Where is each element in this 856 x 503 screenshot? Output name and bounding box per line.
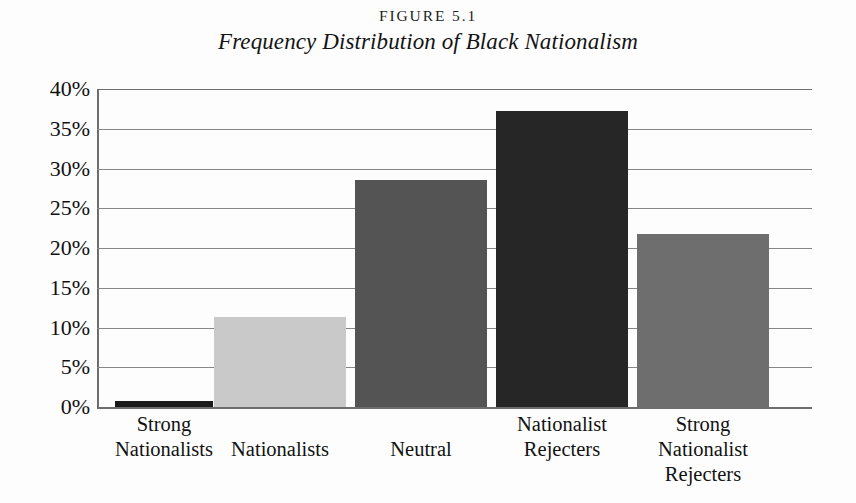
gridline bbox=[97, 129, 812, 130]
bar bbox=[355, 180, 487, 407]
y-axis-tick-label: 40% bbox=[12, 78, 90, 100]
y-axis-tick-labels: 40%35%30%25%20%15%10%5%0% bbox=[8, 89, 90, 407]
x-axis-category-label-line: Nationalist bbox=[603, 437, 803, 462]
bar bbox=[214, 317, 346, 407]
bar bbox=[115, 401, 213, 407]
plot-top-rule bbox=[97, 89, 812, 90]
page-title: Frequency Distribution of Black National… bbox=[0, 27, 856, 57]
x-axis-line bbox=[97, 407, 812, 409]
y-axis-tick-label: 25% bbox=[12, 197, 90, 219]
chart-plot-area bbox=[97, 89, 812, 407]
y-axis-tick-label: 15% bbox=[12, 277, 90, 299]
figure-number: FIGURE 5.1 bbox=[0, 6, 856, 26]
bar bbox=[637, 234, 769, 407]
x-axis-category-labels: StrongNationalistsNationalistsNeutralNat… bbox=[97, 412, 812, 502]
y-axis-tick-label: 30% bbox=[12, 158, 90, 180]
y-axis-tick-label: 35% bbox=[12, 118, 90, 140]
x-axis-category-label-line: Rejecters bbox=[603, 462, 803, 487]
x-axis-category-label-line: Strong bbox=[603, 412, 803, 437]
x-axis-category-label-line: Strong bbox=[64, 412, 264, 437]
x-axis-category-label: StrongNationalistRejecters bbox=[603, 412, 803, 487]
y-axis-tick-label: 20% bbox=[12, 237, 90, 259]
bar bbox=[496, 111, 628, 407]
y-axis-tick-label: 10% bbox=[12, 317, 90, 339]
figure-page: FIGURE 5.1 Frequency Distribution of Bla… bbox=[0, 0, 856, 503]
y-axis-tick-label: 5% bbox=[12, 356, 90, 378]
gridline bbox=[97, 169, 812, 170]
figure-title-block: FIGURE 5.1 Frequency Distribution of Bla… bbox=[0, 6, 856, 57]
